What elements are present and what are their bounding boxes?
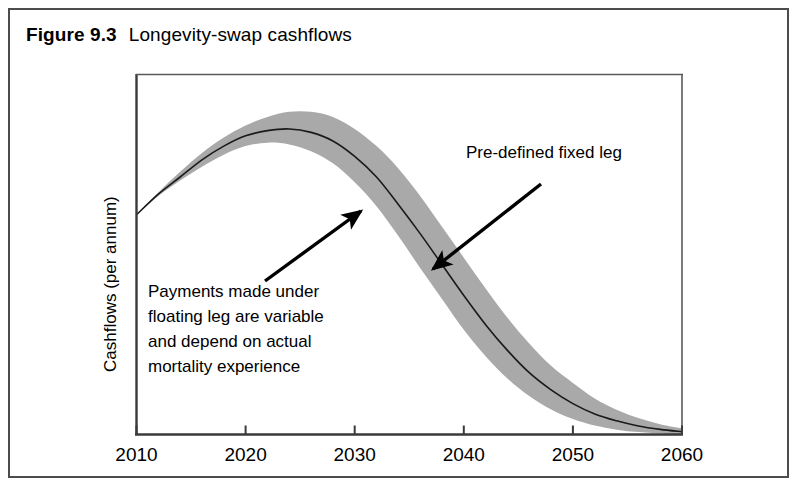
annotation-floating-leg-line-1: Payments made under [148, 282, 319, 301]
x-axis-tick-label: 2040 [443, 444, 485, 465]
x-axis-tick-label: 2060 [661, 444, 703, 465]
longevity-swap-chart: 201020202030204020502060 Cashflows (per … [0, 0, 799, 489]
chart-axes [135, 74, 683, 435]
figure-root: Figure 9.3Longevity-swap cashflows 20102… [0, 0, 799, 489]
annotation-floating-leg-arrow [265, 211, 361, 281]
x-axis-tick-label: 2020 [224, 444, 266, 465]
annotation-fixed-leg: Pre-defined fixed leg [433, 143, 622, 269]
x-axis-tick-labels: 201020202030204020502060 [115, 444, 703, 465]
annotation-floating-leg: Payments made under floating leg are var… [148, 211, 361, 376]
annotation-floating-leg-line-2: floating leg are variable [148, 307, 324, 326]
annotation-floating-leg-line-4: mortality experience [148, 357, 300, 376]
annotation-fixed-leg-arrow [433, 184, 541, 269]
fixed-leg-line [137, 129, 683, 432]
y-axis-title: Cashflows (per annum) [101, 196, 120, 372]
x-axis-tick-label: 2030 [334, 444, 376, 465]
x-axis-tick-label: 2010 [115, 444, 157, 465]
annotation-fixed-leg-line-1: Pre-defined fixed leg [466, 143, 622, 162]
x-axis-ticks [137, 426, 683, 435]
annotation-floating-leg-line-3: and depend on actual [148, 332, 312, 351]
x-axis-tick-label: 2050 [552, 444, 594, 465]
